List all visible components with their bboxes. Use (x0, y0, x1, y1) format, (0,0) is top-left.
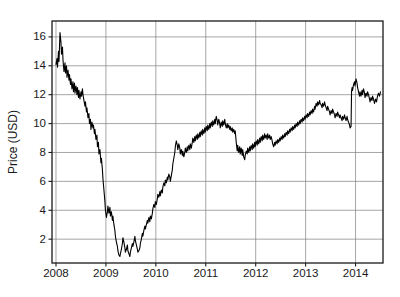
x-tick-label: 2012 (243, 267, 269, 279)
y-tick-label: 12 (33, 88, 46, 100)
x-tick-label: 2009 (93, 267, 119, 279)
x-tick-label: 2010 (143, 267, 169, 279)
y-tick-label: 14 (33, 59, 46, 71)
x-tick-label: 2011 (193, 267, 218, 279)
y-tick-label: 10 (33, 117, 46, 129)
price-chart: 246810121416 200820092010201120122013201… (0, 0, 400, 297)
y-tick-label: 16 (33, 30, 46, 42)
x-tick-label: 2013 (293, 267, 319, 279)
y-tick-label: 8 (40, 146, 46, 158)
chart-svg: 246810121416 200820092010201120122013201… (0, 0, 400, 297)
y-axis-title: Price (USD) (6, 110, 20, 174)
y-tick-label: 4 (40, 204, 47, 216)
y-tick-label: 2 (40, 233, 46, 245)
x-tick-label: 2014 (343, 267, 369, 279)
x-tick-label: 2008 (43, 267, 69, 279)
y-tick-label: 6 (40, 175, 46, 187)
